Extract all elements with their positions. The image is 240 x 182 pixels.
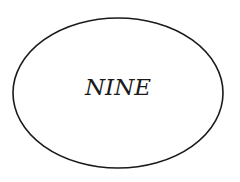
diagram-canvas: NINE [0, 0, 240, 182]
ellipse-label: NINE [0, 74, 236, 100]
